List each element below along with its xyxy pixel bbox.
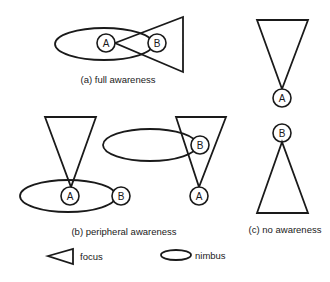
nimbus-b-right-ellipse: [103, 129, 197, 161]
panel-peripheral-awareness-left: A B: [20, 117, 130, 212]
focus-c-top-triangle: [257, 20, 308, 89]
nimbus-legend-icon: [161, 250, 191, 260]
node-b-label: B: [197, 140, 204, 151]
legend-nimbus-label: nimbus: [195, 250, 226, 261]
caption-full-awareness: (a) full awareness: [81, 74, 156, 85]
node-a-label: A: [279, 93, 286, 104]
node-b-label: B: [118, 191, 125, 202]
caption-peripheral-awareness: (b) peripheral awareness: [71, 226, 176, 237]
node-a-label: A: [196, 191, 203, 202]
node-a-label: A: [103, 38, 110, 49]
node-a-label: A: [67, 191, 74, 202]
focus-legend-icon: [48, 249, 73, 264]
legend-focus-label: focus: [80, 251, 103, 262]
legend: focus nimbus: [48, 249, 226, 264]
panel-full-awareness: A B (a) full awareness: [55, 17, 183, 85]
node-b-label: B: [279, 128, 286, 139]
focus-b-left-triangle: [45, 117, 96, 187]
caption-no-awareness: (c) no awareness: [249, 224, 322, 235]
node-b-label: B: [154, 38, 161, 49]
panel-no-awareness: A B (c) no awareness: [249, 20, 322, 235]
focus-c-bottom-triangle: [257, 142, 308, 213]
awareness-diagram: A B (a) full awareness A B B A (b) perip…: [0, 0, 330, 282]
